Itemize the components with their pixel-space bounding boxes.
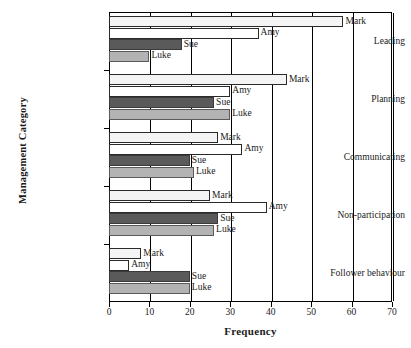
x-tick-label-30: 30 — [210, 307, 250, 317]
y-tick-4 — [104, 244, 109, 245]
bar-label-luke-0: Luke — [151, 50, 171, 61]
bar-sue-2 — [109, 155, 190, 166]
bar-mark-4 — [109, 248, 141, 259]
bar-label-luke-4: Luke — [192, 282, 212, 293]
x-tick-label-20: 20 — [170, 307, 210, 317]
x-axis-title: Frequency — [109, 325, 392, 337]
bar-sue-3 — [109, 213, 218, 224]
bar-label-mark-0: Mark — [345, 16, 366, 27]
bar-label-amy-0: Amy — [261, 27, 280, 38]
bar-label-amy-1: Amy — [232, 85, 251, 96]
bar-luke-2 — [109, 167, 194, 178]
bar-luke-0 — [109, 51, 149, 62]
bar-amy-1 — [109, 86, 230, 97]
bar-sue-4 — [109, 271, 190, 282]
bar-luke-4 — [109, 283, 190, 294]
bar-label-amy-3: Amy — [269, 201, 288, 212]
bar-sue-0 — [109, 39, 182, 50]
y-tick-2 — [104, 128, 109, 129]
bar-mark-0 — [109, 16, 343, 27]
bar-label-sue-0: Sue — [184, 39, 198, 50]
bar-label-mark-2: Mark — [220, 132, 241, 143]
category-label-4: Follower behaviour — [205, 268, 405, 278]
bar-label-sue-1: Sue — [216, 97, 230, 108]
bar-label-luke-2: Luke — [196, 166, 216, 177]
bar-label-luke-3: Luke — [216, 224, 236, 235]
bar-luke-3 — [109, 225, 214, 236]
y-axis-title: Management Category — [17, 66, 28, 236]
x-tick-label-70: 70 — [372, 307, 411, 317]
x-tick-label-60: 60 — [332, 307, 372, 317]
y-tick-1 — [104, 70, 109, 71]
x-tick-label-40: 40 — [251, 307, 291, 317]
bar-label-mark-4: Mark — [143, 248, 164, 259]
bar-amy-3 — [109, 202, 267, 213]
bar-mark-3 — [109, 190, 210, 201]
bar-label-amy-4: Amy — [131, 259, 150, 270]
bar-chart: Management Category Frequency 0102030405… — [0, 0, 411, 348]
bar-luke-1 — [109, 109, 230, 120]
bar-mark-1 — [109, 74, 287, 85]
bar-label-sue-3: Sue — [220, 213, 234, 224]
x-tick-label-0: 0 — [89, 307, 129, 317]
bar-label-mark-3: Mark — [212, 190, 233, 201]
bar-amy-4 — [109, 260, 129, 271]
bar-label-amy-2: Amy — [244, 143, 263, 154]
bar-label-mark-1: Mark — [289, 74, 310, 85]
bar-amy-2 — [109, 144, 242, 155]
x-tick-label-50: 50 — [291, 307, 331, 317]
bar-label-sue-2: Sue — [192, 155, 206, 166]
bar-amy-0 — [109, 28, 259, 39]
bar-sue-1 — [109, 97, 214, 108]
y-tick-3 — [104, 186, 109, 187]
x-tick-label-10: 10 — [129, 307, 169, 317]
bar-label-sue-4: Sue — [192, 271, 206, 282]
bar-label-luke-1: Luke — [232, 108, 252, 119]
bar-mark-2 — [109, 132, 218, 143]
